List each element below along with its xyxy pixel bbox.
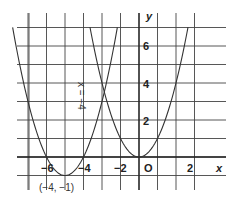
parabola-graph: −6 −4 −2 O 2 x 6 4 2 y x = −4 (−4, −1) bbox=[0, 0, 238, 209]
symmetry-line-label: x = −4 bbox=[76, 82, 87, 110]
x-tick-minus2: −2 bbox=[114, 162, 127, 174]
y-tick-6: 6 bbox=[143, 40, 149, 52]
x-tick-2: 2 bbox=[187, 162, 193, 174]
y-tick-4: 4 bbox=[143, 78, 150, 90]
y-axis-label: y bbox=[145, 10, 153, 22]
x-tick-minus4: −4 bbox=[78, 162, 91, 174]
vertex-label: (−4, −1) bbox=[39, 182, 74, 193]
y-tick-2: 2 bbox=[143, 115, 149, 127]
origin-label: O bbox=[144, 162, 153, 174]
x-axis-label: x bbox=[215, 162, 223, 174]
x-tick-minus6: −6 bbox=[41, 162, 54, 174]
